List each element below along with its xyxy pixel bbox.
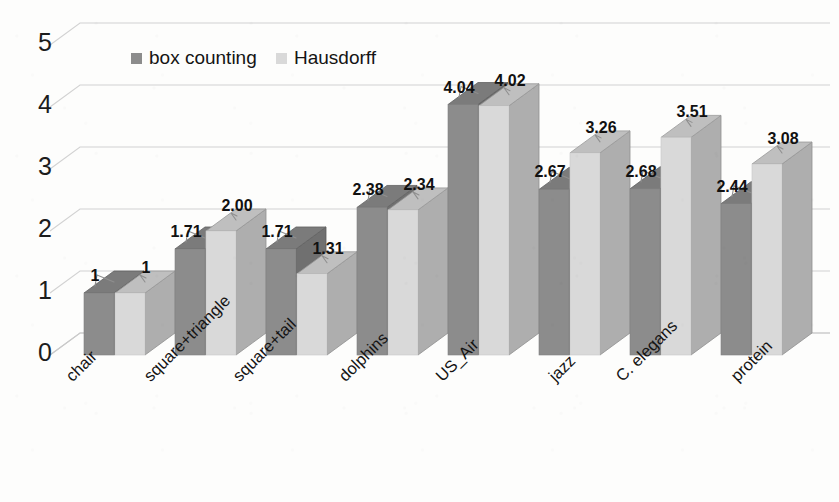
legend-swatch-hausdorff xyxy=(276,53,287,64)
legend-label-box-counting: box counting xyxy=(149,47,257,69)
value-label: 3.51 xyxy=(664,103,720,121)
legend-item-box-counting[interactable]: box counting xyxy=(131,47,257,69)
bar-dolphins-Hausdorff[interactable] xyxy=(388,188,448,355)
fractal-dimension-bar-chart: 0 1 2 3 4 5 box counting Hausdorff chair… xyxy=(0,0,839,502)
legend-label-hausdorff: Hausdorff xyxy=(294,47,376,69)
bar-us-air-Hausdorff[interactable] xyxy=(479,84,539,355)
y-tick-5: 5 xyxy=(12,30,52,55)
y-tick-2: 2 xyxy=(12,216,52,241)
value-label: 2.68 xyxy=(613,163,669,181)
value-label: 1.71 xyxy=(158,223,214,241)
value-label: 2.44 xyxy=(704,178,760,196)
value-label: 3.08 xyxy=(755,130,811,148)
value-label: 1.71 xyxy=(249,223,305,241)
value-label: 2.67 xyxy=(522,163,578,181)
value-label: 3.26 xyxy=(573,119,629,137)
value-label: 4.04 xyxy=(431,79,487,97)
value-label: 1.31 xyxy=(300,240,356,258)
value-label: 4.02 xyxy=(482,72,538,90)
value-label: 2.00 xyxy=(209,197,265,215)
bar-protein-Hausdorff[interactable] xyxy=(752,142,812,355)
y-tick-4: 4 xyxy=(12,92,52,117)
y-tick-0: 0 xyxy=(12,340,52,365)
value-label: 1 xyxy=(118,259,174,277)
legend-swatch-box-counting xyxy=(131,53,142,64)
y-tick-3: 3 xyxy=(12,154,52,179)
legend-item-hausdorff[interactable]: Hausdorff xyxy=(276,47,376,69)
value-label: 2.38 xyxy=(340,181,396,199)
value-label: 1 xyxy=(67,267,123,285)
y-tick-1: 1 xyxy=(12,278,52,303)
value-label: 2.34 xyxy=(391,176,447,194)
chart-plot-area xyxy=(0,0,839,502)
bar-square-tail-Hausdorff[interactable] xyxy=(297,252,357,355)
